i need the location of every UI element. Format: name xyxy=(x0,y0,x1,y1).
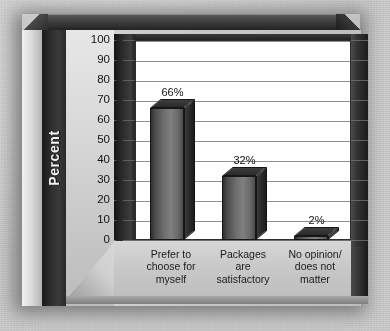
category-label-line: myself xyxy=(135,273,207,285)
gridline xyxy=(136,61,350,62)
gridline-depth xyxy=(351,200,368,201)
y-axis-tick-label: 50 xyxy=(66,134,110,146)
frame-left-pillar xyxy=(22,30,42,306)
y-axis-tick-label: 20 xyxy=(66,194,110,206)
gridline-depth xyxy=(351,80,368,81)
category-label-row: Prefer tochoose formyselfPackagesaresati… xyxy=(135,246,351,298)
frame-top-right-chamfer xyxy=(336,14,360,30)
bar-front-face xyxy=(150,108,184,240)
bar-value-label: 32% xyxy=(212,154,277,166)
chart-3d-frame: Percent Prefer tochoose formyselfPackage… xyxy=(22,14,360,306)
bar-front-face xyxy=(222,176,256,240)
y-axis-tick-dash xyxy=(116,60,123,61)
category-label-line: are xyxy=(207,260,279,272)
y-axis-tick-label: 0 xyxy=(66,234,110,246)
gridline xyxy=(136,41,350,42)
y-axis-tick-label: 80 xyxy=(66,74,110,86)
y-axis-tick-label: 40 xyxy=(66,154,110,166)
bar-side-face xyxy=(256,167,267,240)
gridline-depth xyxy=(351,100,368,101)
gridline xyxy=(136,81,350,82)
y-axis-tick-label: 70 xyxy=(66,94,110,106)
category-label-line: satisfactory xyxy=(207,273,279,285)
category-label: Packagesaresatisfactory xyxy=(207,246,279,298)
y-axis-tick-label: 90 xyxy=(66,54,110,66)
y-axis-tick-label: 60 xyxy=(66,114,110,126)
category-label-line: No opinion/ xyxy=(279,248,351,260)
gridline-depth xyxy=(351,180,368,181)
gridline-depth xyxy=(351,160,368,161)
category-label: No opinion/does notmatter xyxy=(279,246,351,298)
bar-side-face xyxy=(184,99,195,240)
y-axis-tick-label: 10 xyxy=(66,214,110,226)
y-axis-tick-dash xyxy=(116,120,123,121)
category-label: Prefer tochoose formyself xyxy=(135,246,207,298)
y-axis-tick-label: 100 xyxy=(66,34,110,46)
gridline-depth xyxy=(351,120,368,121)
bar-value-label: 2% xyxy=(284,214,349,226)
plot-right-wall xyxy=(351,34,368,246)
y-axis-tick-dash xyxy=(116,40,123,41)
y-axis-tick-dash xyxy=(116,180,123,181)
category-label-line: choose for xyxy=(135,260,207,272)
y-axis-tick-dash xyxy=(116,100,123,101)
y-axis-tick-dash xyxy=(116,220,123,221)
gridline-depth xyxy=(351,140,368,141)
frame-top-left-chamfer xyxy=(22,14,48,30)
category-label-line: matter xyxy=(279,273,351,285)
y-axis-tick-dash xyxy=(116,200,123,201)
bar-front-face xyxy=(294,236,328,240)
category-label-line: does not xyxy=(279,260,351,272)
bar-value-label: 66% xyxy=(140,86,205,98)
bar xyxy=(294,236,328,240)
gridline-depth xyxy=(351,240,368,241)
gridline-depth xyxy=(351,220,368,221)
gridline-depth xyxy=(351,60,368,61)
gridline-depth xyxy=(351,40,368,41)
y-axis-tick-dash xyxy=(116,140,123,141)
y-axis-title: Percent xyxy=(46,68,62,248)
bar xyxy=(222,176,256,240)
category-label-line: Prefer to xyxy=(135,248,207,260)
y-axis-tick-dash xyxy=(116,160,123,161)
chart-figure: Percent Prefer tochoose formyselfPackage… xyxy=(0,0,390,331)
bar xyxy=(150,108,184,240)
y-axis-tick-label: 30 xyxy=(66,174,110,186)
frame-top-bevel xyxy=(22,14,360,30)
floor-right-face xyxy=(351,246,368,300)
y-axis-label-strip: Percent xyxy=(42,30,66,306)
category-label-line: Packages xyxy=(207,248,279,260)
y-axis-tick-dash xyxy=(116,240,123,241)
y-axis-tick-dash xyxy=(116,80,123,81)
